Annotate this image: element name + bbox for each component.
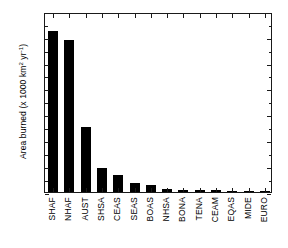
x-tick-top-bona: [183, 14, 184, 18]
x-tick-label-aust: AUST: [80, 197, 90, 220]
y-tick-minor-left-700: [45, 103, 48, 104]
x-tick-label-ceas: CEAS: [112, 197, 122, 221]
y-tick-right-1000: [267, 65, 271, 66]
bars-group: [45, 14, 271, 192]
y-tick-minor-right-100: [269, 181, 272, 182]
bar-aust: [81, 127, 91, 192]
y-tick-minor-left-500: [45, 129, 48, 130]
bar-nhaf: [64, 40, 74, 192]
y-tick-left-200: [45, 168, 49, 169]
bar-shaf: [48, 31, 58, 192]
x-tick-bottom-eqas: [232, 188, 233, 192]
x-tick-label-nhsa: NHSA: [161, 197, 171, 221]
y-tick-left-600: [45, 116, 49, 117]
x-tick-bottom-euro: [265, 188, 266, 192]
x-tick-top-seas: [135, 14, 136, 18]
y-tick-minor-right-700: [269, 103, 272, 104]
x-tick-label-seas: SEAS: [129, 197, 139, 220]
y-tick-minor-right-900: [269, 77, 272, 78]
y-tick-minor-left-1300: [45, 26, 48, 27]
y-tick-minor-left-300: [45, 155, 48, 156]
y-tick-left-1200: [45, 39, 49, 40]
y-tick-minor-left-100: [45, 181, 48, 182]
y-tick-minor-left-900: [45, 77, 48, 78]
y-tick-minor-right-300: [269, 155, 272, 156]
x-tick-label-bona: BONA: [177, 197, 187, 222]
x-tick-top-eqas: [232, 14, 233, 18]
x-tick-bottom-shsa: [102, 188, 103, 192]
y-tick-minor-left-1100: [45, 52, 48, 53]
y-tick-right-800: [267, 90, 271, 91]
y-axis-title-suffix: ): [18, 44, 28, 47]
y-axis-title-superscript-km2: 2: [18, 62, 24, 65]
x-tick-bottom-aust: [86, 188, 87, 192]
x-tick-bottom-tena: [200, 188, 201, 192]
y-tick-minor-right-500: [269, 129, 272, 130]
y-tick-right-1200: [267, 39, 271, 40]
plot-area: 020040060080010001200: [44, 13, 272, 193]
y-tick-right-600: [267, 116, 271, 117]
y-axis-title: Area burned (x 1000 km2 yr-1): [18, 6, 29, 196]
figure-bar-chart-area-burned: Area burned (x 1000 km2 yr-1) 0200400600…: [0, 0, 288, 248]
x-tick-bottom-nhsa: [167, 188, 168, 192]
y-tick-right-0: [267, 194, 271, 195]
x-tick-bottom-mide: [249, 188, 250, 192]
x-tick-label-shsa: SHSA: [96, 197, 106, 221]
x-tick-bottom-boas: [151, 188, 152, 192]
y-tick-left-0: [45, 194, 49, 195]
x-tick-top-tena: [200, 14, 201, 18]
x-tick-label-eqas: EQAS: [226, 197, 236, 221]
x-tick-bottom-shaf: [53, 188, 54, 192]
y-tick-minor-right-1100: [269, 52, 272, 53]
y-axis-title-mid: yr: [18, 52, 28, 62]
x-tick-label-shaf: SHAF: [47, 197, 57, 220]
x-tick-top-nhaf: [69, 14, 70, 18]
x-tick-label-euro: EURO: [259, 197, 269, 222]
x-tick-top-ceam: [216, 14, 217, 18]
x-tick-bottom-bona: [183, 188, 184, 192]
x-tick-top-nhsa: [167, 14, 168, 18]
x-tick-top-mide: [249, 14, 250, 18]
x-tick-top-boas: [151, 14, 152, 18]
y-tick-left-1000: [45, 65, 49, 66]
y-tick-left-800: [45, 90, 49, 91]
x-tick-top-euro: [265, 14, 266, 18]
y-axis-title-superscript-yr: -1: [18, 47, 24, 53]
x-tick-bottom-nhaf: [69, 188, 70, 192]
x-tick-label-boas: BOAS: [145, 197, 155, 221]
y-tick-left-400: [45, 142, 49, 143]
x-tick-label-ceam: CEAM: [210, 197, 220, 222]
x-tick-label-mide: MIDE: [243, 197, 253, 219]
x-tick-top-ceas: [118, 14, 119, 18]
x-tick-label-nhaf: NHAF: [63, 197, 73, 221]
y-tick-minor-right-1300: [269, 26, 272, 27]
y-axis-title-prefix: Area burned (x 1000 km: [18, 66, 28, 159]
x-tick-bottom-ceas: [118, 188, 119, 192]
x-tick-top-shsa: [102, 14, 103, 18]
x-axis-tick-labels: SHAFNHAFAUSTSHSACEASSEASBOASNHSABONATENA…: [44, 197, 272, 247]
x-tick-bottom-ceam: [216, 188, 217, 192]
x-tick-top-shaf: [53, 14, 54, 18]
x-tick-top-aust: [86, 14, 87, 18]
x-tick-label-tena: TENA: [194, 197, 204, 220]
y-tick-right-200: [267, 168, 271, 169]
x-tick-bottom-seas: [135, 188, 136, 192]
y-tick-right-400: [267, 142, 271, 143]
